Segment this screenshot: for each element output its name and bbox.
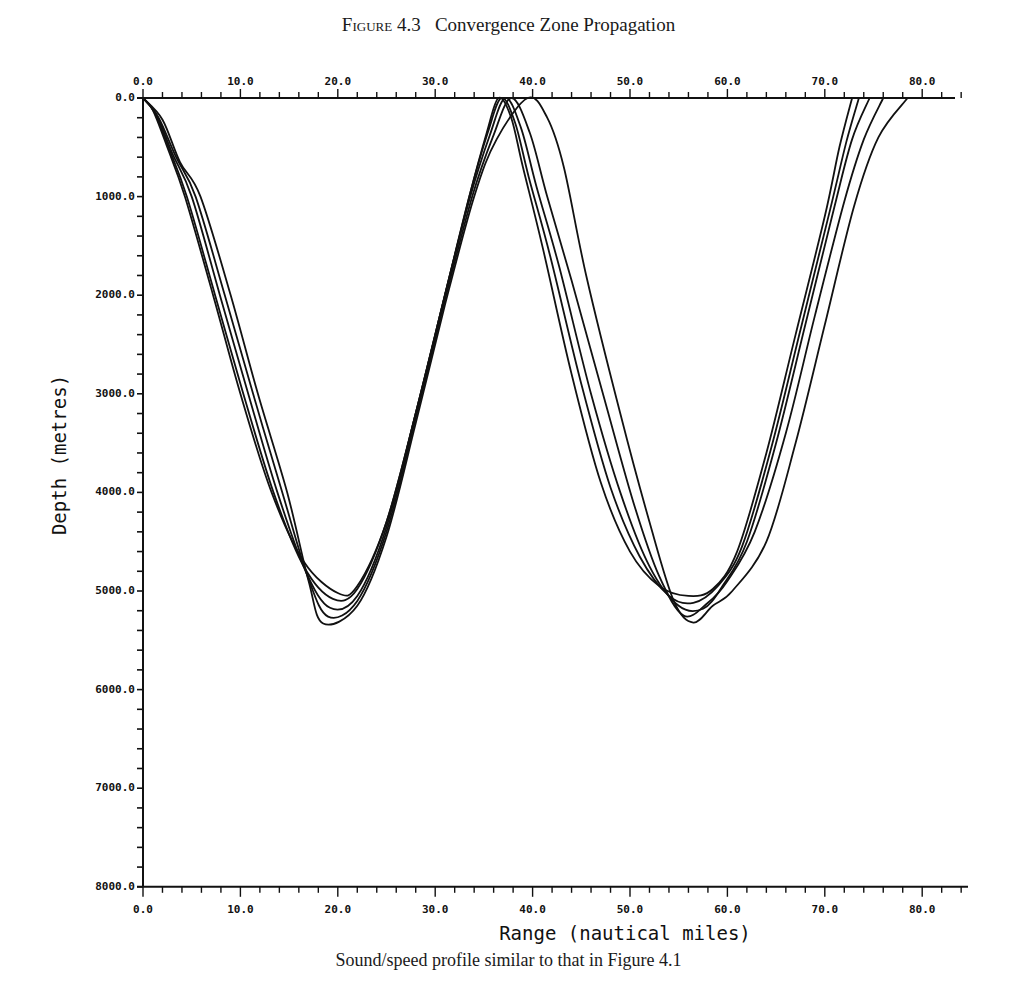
- bottom-x-tick-label: 50.0: [617, 903, 644, 916]
- top-x-tick-label: 70.0: [812, 75, 839, 88]
- top-x-tick-label: 0.0: [133, 75, 153, 88]
- y-tick-label: 5000.0: [95, 584, 135, 597]
- chart-plot: 0.01000.02000.03000.04000.05000.06000.07…: [0, 0, 1017, 982]
- top-x-tick-label: 50.0: [617, 75, 644, 88]
- ray-path-ray-1: [143, 98, 852, 596]
- y-tick-label: 2000.0: [95, 288, 135, 301]
- y-tick-label: 4000.0: [95, 485, 135, 498]
- bottom-x-tick-label: 20.0: [325, 903, 352, 916]
- bottom-x-tick-label: 0.0: [133, 903, 153, 916]
- y-tick-label: 3000.0: [95, 387, 135, 400]
- top-x-tick-label: 30.0: [422, 75, 449, 88]
- figure-caption: Sound/speed profile similar to that in F…: [0, 950, 1017, 971]
- bottom-x-tick-label: 40.0: [519, 903, 546, 916]
- bottom-x-tick-label: 10.0: [227, 903, 254, 916]
- bottom-x-tick-label: 70.0: [812, 903, 839, 916]
- top-x-tick-label: 40.0: [519, 75, 546, 88]
- y-tick-label: 0.0: [115, 91, 135, 104]
- y-tick-label: 7000.0: [95, 781, 135, 794]
- x-axis-title: Range (nautical miles): [499, 922, 751, 944]
- bottom-x-tick-label: 80.0: [909, 903, 936, 916]
- ray-path-ray-4: [143, 98, 883, 618]
- y-tick-label: 1000.0: [95, 190, 135, 203]
- top-x-tick-label: 60.0: [714, 75, 741, 88]
- bottom-x-tick-label: 30.0: [422, 903, 449, 916]
- bottom-x-tick-label: 60.0: [714, 903, 741, 916]
- y-axis-title: Depth (metres): [48, 375, 70, 535]
- ray-paths: [143, 97, 908, 624]
- y-tick-label: 6000.0: [95, 683, 135, 696]
- y-tick-label: 8000.0: [95, 880, 135, 893]
- top-x-tick-label: 10.0: [227, 75, 254, 88]
- top-x-tick-label: 80.0: [909, 75, 936, 88]
- top-x-tick-label: 20.0: [325, 75, 352, 88]
- ray-path-ray-3: [143, 98, 870, 611]
